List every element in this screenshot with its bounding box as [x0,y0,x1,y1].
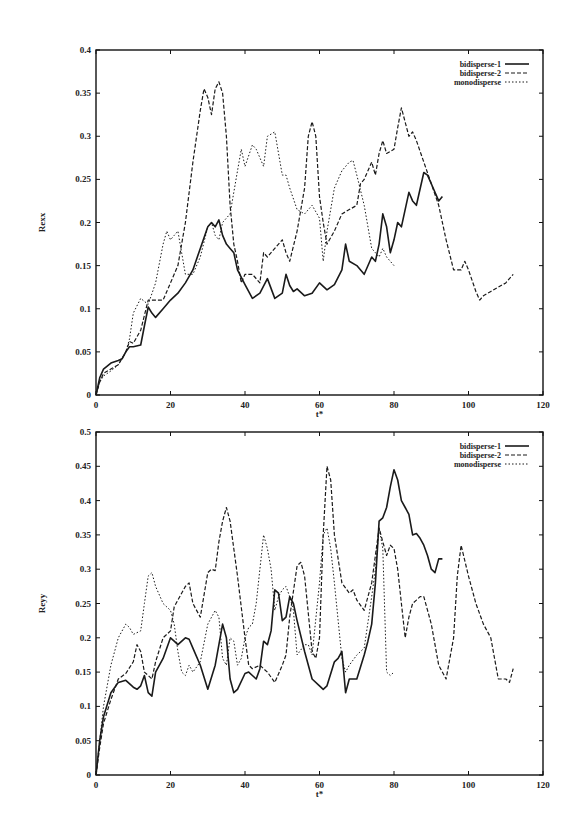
y-axis-label: Reyy [37,593,47,613]
series-bidisperse-1 [96,470,442,775]
y-tick-label: 0.15 [75,667,91,677]
x-tick-label: 120 [536,780,550,790]
reyy-chart: 02040608010012000.050.10.150.20.250.30.3… [0,0,578,829]
y-tick-label: 0 [87,770,92,780]
reyy-plot: 02040608010012000.050.10.150.20.250.30.3… [0,0,578,829]
x-tick-label: 40 [241,780,251,790]
x-tick-label: 100 [462,780,476,790]
y-tick-label: 0.1 [80,701,92,711]
y-tick-label: 0.25 [75,599,91,609]
y-tick-label: 0.45 [75,461,91,471]
plot-frame [96,432,543,775]
x-tick-label: 0 [94,780,99,790]
y-tick-label: 0.5 [80,427,92,437]
x-tick-label: 20 [166,780,176,790]
y-tick-label: 0.4 [80,496,92,506]
y-tick-label: 0.3 [80,564,92,574]
y-tick-label: 0.35 [75,530,91,540]
y-tick-label: 0.2 [80,633,92,643]
legend-label: bidisperse-1 [460,442,501,451]
legend-label: bidisperse-2 [460,451,501,460]
y-tick-label: 0.05 [75,736,91,746]
series-bidisperse-2 [96,466,513,775]
x-axis-label: t* [316,789,324,799]
legend-label: monodisperse [454,460,502,469]
x-tick-label: 80 [390,780,400,790]
